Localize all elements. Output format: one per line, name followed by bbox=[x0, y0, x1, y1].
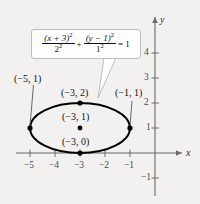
equation-fraction-y: (y − 1)2 12 bbox=[84, 33, 116, 55]
equation-denominator-y: 12 bbox=[84, 43, 116, 55]
equation-num1-exponent: 2 bbox=[69, 31, 72, 38]
equation-den2-exponent: 2 bbox=[100, 42, 103, 49]
point-label-center: (−3, 1) bbox=[62, 112, 89, 122]
equation-plus-sign: + bbox=[77, 39, 82, 49]
point-label-bottom-vertex: (−3, 0) bbox=[62, 137, 89, 147]
x-tick-label-neg2: −2 bbox=[99, 161, 109, 171]
equation-fraction-x: (x + 3)2 22 bbox=[42, 33, 74, 55]
x-axis-arrow bbox=[176, 150, 182, 156]
point-right-vertex bbox=[127, 125, 132, 130]
x-tick-label-neg1: −1 bbox=[124, 161, 134, 171]
equation-num1-text: (x + 3) bbox=[44, 33, 69, 43]
ellipse-figure: (x + 3)2 22 + (y − 1)2 12 = 1 (−5, 1) (−… bbox=[0, 0, 200, 204]
x-tick-label-neg3: −3 bbox=[74, 161, 84, 171]
x-axis-label: x bbox=[186, 148, 190, 158]
y-tick-label-3: 3 bbox=[144, 73, 149, 83]
callout-tail bbox=[98, 58, 116, 98]
point-center bbox=[78, 126, 83, 131]
equation-num2-text: (y − 1) bbox=[86, 33, 111, 43]
ellipse-equation: (x + 3)2 22 + (y − 1)2 12 = 1 bbox=[41, 33, 131, 55]
point-label-left-vertex: (−5, 1) bbox=[14, 74, 41, 84]
y-tick-label-2: 2 bbox=[144, 98, 149, 108]
equation-callout-box: (x + 3)2 22 + (y − 1)2 12 = 1 bbox=[31, 29, 141, 59]
x-tick-label-neg4: −4 bbox=[49, 161, 59, 171]
point-label-top-vertex: (−3, 2) bbox=[61, 88, 88, 98]
equation-denominator-x: 22 bbox=[42, 43, 74, 55]
y-tick-label-4: 4 bbox=[144, 48, 149, 58]
point-bottom-vertex bbox=[77, 150, 82, 155]
point-label-right-vertex: (−1, 1) bbox=[115, 88, 142, 98]
equation-num2-exponent: 2 bbox=[111, 31, 114, 38]
equation-den1-exponent: 2 bbox=[59, 42, 62, 49]
point-top-vertex bbox=[77, 100, 82, 105]
y-axis-arrow bbox=[152, 17, 158, 23]
equation-equals-one: = 1 bbox=[118, 39, 130, 49]
point-left-vertex bbox=[27, 125, 32, 130]
leader-line-right-vertex bbox=[130, 101, 132, 126]
x-tick-label-neg5: −5 bbox=[24, 161, 34, 171]
y-tick-label-1: 1 bbox=[146, 123, 151, 133]
y-tick-label-neg1: −1 bbox=[141, 173, 151, 183]
y-axis-label: y bbox=[160, 15, 164, 25]
